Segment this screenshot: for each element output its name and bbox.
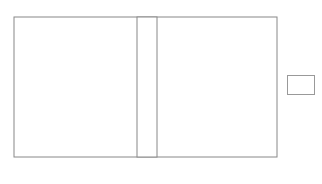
doubling-cube[interactable] (287, 75, 315, 95)
bar[interactable] (137, 17, 157, 157)
backgammon-board (0, 0, 322, 184)
